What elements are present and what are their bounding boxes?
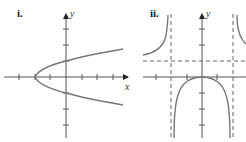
y-axis-label: y [69, 8, 75, 19]
right-branch-curve [237, 15, 246, 44]
graphs-figure: i. y x ii. [0, 0, 246, 142]
panel-i-label: i. [17, 7, 23, 19]
left-branch-curve [143, 15, 168, 55]
panel-ii-label: ii. [150, 7, 159, 19]
panel-i: i. y x [4, 7, 130, 138]
y-axis-label: y [205, 8, 211, 19]
panel-ii: ii. y [143, 7, 246, 140]
x-axis-label: x [124, 81, 130, 92]
